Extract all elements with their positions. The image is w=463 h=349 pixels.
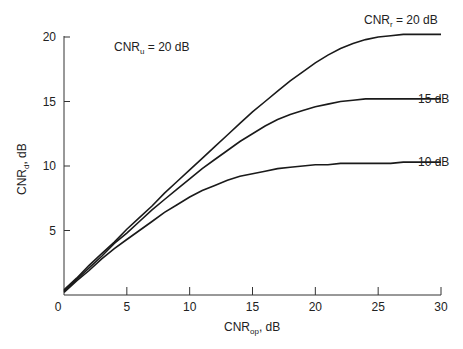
y-ticks: 5101520 bbox=[43, 30, 70, 238]
y-tick-label: 5 bbox=[49, 224, 56, 238]
x-tick-label: 5 bbox=[123, 300, 130, 314]
curve-10db-label: 10 dB bbox=[418, 155, 449, 169]
curve-20db bbox=[64, 34, 441, 289]
y-tick-label: 15 bbox=[43, 95, 57, 109]
y-tick-label: 10 bbox=[43, 159, 57, 173]
x-axis-title: CNRop, dB bbox=[224, 320, 280, 336]
curve-15db bbox=[64, 99, 441, 291]
x-tick-label: 20 bbox=[309, 300, 323, 314]
x-tick-label: 0 bbox=[55, 300, 62, 314]
x-ticks: 051015202530 bbox=[55, 287, 448, 314]
y-axis-title: CNRd, dB bbox=[15, 143, 31, 195]
curve-10db bbox=[64, 162, 441, 292]
curve-15db-label: 15 dB bbox=[418, 92, 449, 106]
x-tick-label: 25 bbox=[371, 300, 385, 314]
uplink-annotation: CNRu = 20 dB bbox=[114, 40, 190, 56]
x-tick-label: 15 bbox=[246, 300, 260, 314]
axes bbox=[64, 36, 441, 295]
x-tick-label: 10 bbox=[183, 300, 197, 314]
y-tick-label: 20 bbox=[43, 30, 57, 44]
x-tick-label: 30 bbox=[434, 300, 448, 314]
curve-20db-label: CNRr = 20 dB bbox=[364, 13, 438, 29]
chart: 051015202530 5101520 CNRu = 20 dB CNRr =… bbox=[0, 0, 463, 349]
curves bbox=[64, 34, 441, 292]
